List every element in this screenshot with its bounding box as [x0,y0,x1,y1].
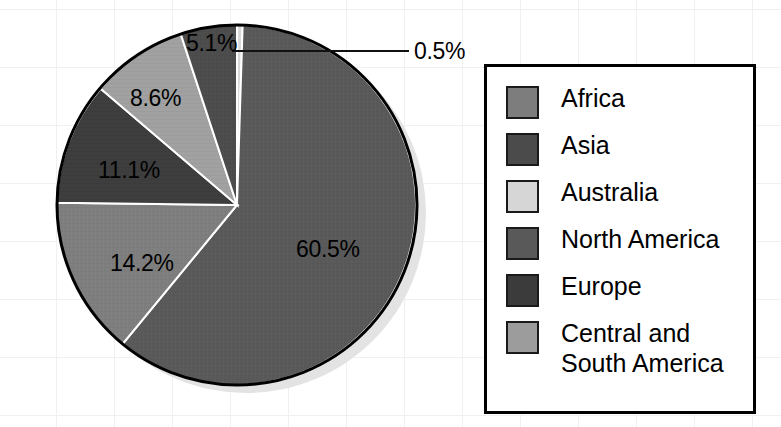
legend-item-australia[interactable]: Australia [506,175,724,222]
legend-item-africa[interactable]: Africa [506,81,724,128]
data-label-asia: 5.1% [186,30,237,57]
legend-label-europe: Europe [561,269,642,301]
legend-label-central-south-america: Central and South America [561,316,724,378]
data-label-africa: 14.2% [110,250,174,277]
legend: Africa Asia Australia North America Euro… [484,64,756,414]
legend-item-asia[interactable]: Asia [506,128,724,175]
legend-item-north-america[interactable]: North America [506,222,724,269]
legend-item-europe[interactable]: Europe [506,269,724,316]
legend-label-asia: Asia [561,128,610,160]
legend-label-africa: Africa [561,81,625,113]
legend-swatch-asia [506,133,539,166]
data-label-australia: 0.5% [414,38,465,65]
legend-swatch-europe [506,274,539,307]
legend-item-central-south-america[interactable]: Central and South America [506,316,724,392]
legend-items: Africa Asia Australia North America Euro… [506,81,724,392]
data-label-central-south-america: 8.6% [130,85,181,112]
legend-swatch-africa [506,86,539,119]
legend-swatch-central-south-america [506,321,539,354]
data-label-europe: 11.1% [98,157,160,184]
data-label-north-america: 60.5% [296,236,360,263]
legend-label-north-america: North America [561,222,719,254]
legend-swatch-australia [506,180,539,213]
legend-label-australia: Australia [561,175,658,207]
legend-swatch-north-america [506,227,539,260]
